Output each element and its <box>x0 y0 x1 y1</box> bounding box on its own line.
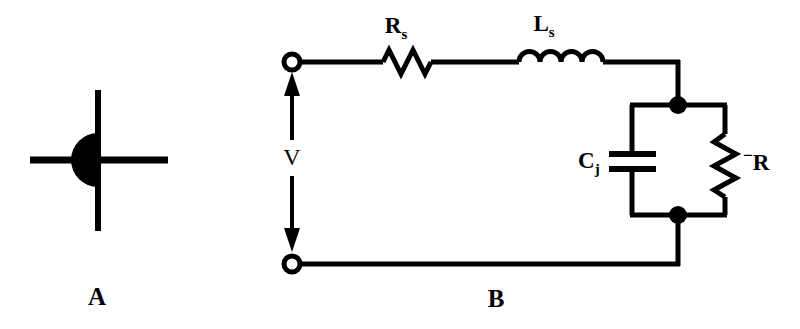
resistor-negative-r-label-main: R <box>753 150 770 175</box>
circuit-figure: A <box>0 0 800 329</box>
figure-root: A <box>0 0 800 329</box>
bottom-terminal-icon <box>284 256 300 272</box>
resistor-rs-label-main: R <box>385 13 402 38</box>
voltage-arrow-down-head <box>284 228 300 252</box>
top-terminal-icon <box>284 54 300 70</box>
panel-b-group: V Rs Ls Cj −R B <box>283 11 769 312</box>
resistor-negative-r-label: −R <box>743 146 770 175</box>
capacitor-cj-label-main: C <box>578 148 595 173</box>
resistor-rs-label-sub: s <box>401 26 407 42</box>
inductor-ls-label: Ls <box>533 11 554 40</box>
inductor-ls-label-main: L <box>533 11 548 36</box>
top-junction-dot <box>669 96 687 114</box>
panel-a-caption: A <box>88 283 106 310</box>
diode-half-disc-icon <box>71 133 98 187</box>
panel-b-caption: B <box>488 285 505 312</box>
resistor-negative-r-label-sup: − <box>743 146 753 165</box>
panel-a-group: A <box>30 90 168 310</box>
resistor-rs-icon <box>383 50 431 74</box>
voltage-arrow-up-head <box>284 72 300 96</box>
voltage-source-label: V <box>283 144 301 170</box>
inductor-ls-icon <box>519 52 603 63</box>
inductor-ls-label-sub: s <box>549 24 555 40</box>
resistor-rs-label: Rs <box>385 13 408 42</box>
resistor-negative-r-icon <box>714 134 736 197</box>
capacitor-cj-label: Cj <box>578 148 600 177</box>
capacitor-cj-label-sub: j <box>594 161 600 177</box>
